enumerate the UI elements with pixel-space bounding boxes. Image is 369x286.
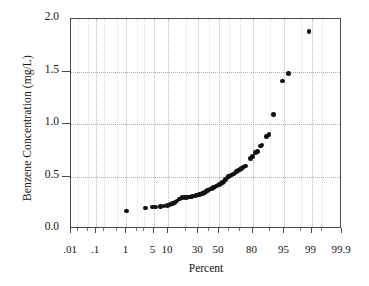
x-axis-minor-tick	[136, 228, 137, 231]
y-axis-tick-label: 0.5	[19, 168, 59, 180]
y-axis-tick-label: 1.0	[19, 115, 59, 127]
x-minor-gridline	[322, 19, 323, 227]
y-gridline	[71, 124, 340, 125]
data-point	[255, 149, 260, 154]
x-axis-minor-tick	[239, 228, 240, 231]
data-point	[243, 164, 248, 169]
x-minor-gridline	[240, 19, 241, 227]
x-axis-minor-tick	[208, 228, 209, 231]
y-axis-tick-label: 1.5	[19, 63, 59, 75]
x-axis-tick	[311, 228, 312, 233]
x-axis-tick-label: 99.9	[321, 243, 361, 255]
x-minor-gridline	[270, 19, 271, 227]
x-minor-gridline	[301, 19, 302, 227]
y-gridline	[71, 72, 340, 73]
x-gridline	[253, 19, 254, 227]
plot-area	[70, 18, 341, 228]
x-minor-gridline	[78, 19, 79, 227]
x-minor-gridline	[88, 19, 89, 227]
x-axis-minor-tick	[300, 228, 301, 231]
x-axis-minor-tick	[185, 228, 186, 231]
x-axis-tick	[197, 228, 198, 233]
y-axis-tick	[62, 71, 70, 72]
x-axis-tick	[167, 228, 168, 233]
y-axis-tick	[62, 123, 70, 124]
x-gridline	[154, 19, 155, 227]
x-axis-minor-tick	[228, 228, 229, 231]
x-gridline	[219, 19, 220, 227]
data-point	[280, 79, 285, 84]
x-axis-tick	[283, 228, 284, 233]
x-gridline	[284, 19, 285, 227]
x-minor-gridline	[229, 19, 230, 227]
x-minor-gridline	[209, 19, 210, 227]
x-gridline	[126, 19, 127, 227]
x-axis-tick	[218, 228, 219, 233]
data-point	[307, 29, 312, 34]
y-gridline	[71, 177, 340, 178]
data-point	[267, 132, 272, 137]
x-axis-tick	[341, 228, 342, 233]
data-point	[260, 143, 265, 148]
y-axis-tick-label: 0.0	[19, 220, 59, 232]
y-axis-tick	[62, 176, 70, 177]
x-axis-minor-tick	[87, 228, 88, 231]
data-point	[271, 112, 276, 117]
x-axis-tick	[70, 228, 71, 233]
x-axis-minor-tick	[77, 228, 78, 231]
x-axis-tick	[153, 228, 154, 233]
x-axis-minor-tick	[103, 228, 104, 231]
y-axis-title: Benzene Concentration (mg/L)	[21, 23, 33, 233]
x-axis-minor-tick	[269, 228, 270, 231]
data-point	[124, 209, 129, 214]
data-point	[143, 206, 148, 211]
x-axis-title: Percent	[70, 262, 342, 274]
x-minor-gridline	[144, 19, 145, 227]
x-axis-minor-tick	[143, 228, 144, 231]
x-minor-gridline	[117, 19, 118, 227]
x-axis-minor-tick	[116, 228, 117, 231]
x-minor-gridline	[104, 19, 105, 227]
data-point	[286, 71, 291, 76]
probability-plot-figure: Benzene Concentration (mg/L) Percent .01…	[0, 0, 369, 286]
y-axis-tick-label: 2.0	[19, 10, 59, 22]
x-axis-tick	[125, 228, 126, 233]
x-axis-minor-tick	[321, 228, 322, 231]
x-gridline	[168, 19, 169, 227]
x-gridline	[96, 19, 97, 227]
x-minor-gridline	[137, 19, 138, 227]
x-gridline	[312, 19, 313, 227]
data-point	[250, 154, 255, 159]
x-axis-tick	[252, 228, 253, 233]
x-axis-tick	[95, 228, 96, 233]
